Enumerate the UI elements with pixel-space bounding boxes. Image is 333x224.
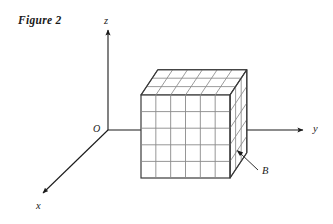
solid-B	[141, 70, 258, 178]
x-axis	[43, 130, 108, 193]
x-axis-label: x	[36, 200, 41, 211]
figure-canvas: Figure 2	[0, 0, 333, 224]
z-axis-label: z	[104, 15, 108, 26]
origin-label: O	[93, 123, 100, 134]
y-axis-label: y	[313, 123, 318, 134]
solid-callout-label: B	[262, 165, 268, 176]
coordinate-diagram	[0, 0, 333, 224]
